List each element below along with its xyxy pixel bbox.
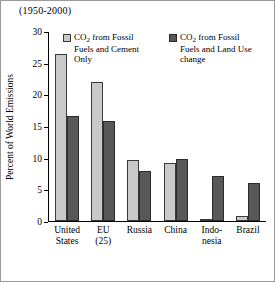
- x-tick-label: EU(25): [85, 225, 121, 247]
- x-tick-label-line1: EU: [97, 225, 110, 235]
- y-tick-label: 10: [33, 154, 43, 164]
- bar: [212, 176, 224, 221]
- y-tick-label: 25: [33, 59, 43, 69]
- bar: [176, 159, 188, 221]
- legend-label: CO2 from FossilFuels and CementOnly: [74, 32, 139, 65]
- x-tick-label-line1: Brazil: [236, 225, 259, 235]
- y-tick-mark: [44, 222, 48, 223]
- legend-label-line2: Fuels and Land Use: [180, 44, 252, 55]
- legend-label-line3: Only: [74, 54, 139, 65]
- legend-label: CO2 from FossilFuels and Land Usechange: [180, 32, 252, 65]
- y-axis-title: Percent of World Emissions: [3, 32, 17, 222]
- bar: [236, 216, 248, 221]
- x-tick-label-line2: nesia: [194, 236, 230, 247]
- x-tick-label-line2: (25): [85, 236, 121, 247]
- legend-label-line1-rest: from Fossil: [90, 32, 134, 42]
- bar: [248, 183, 260, 221]
- bar: [139, 171, 151, 221]
- bar: [91, 82, 103, 221]
- chart-legend: CO2 from FossilFuels and CementOnlyCO2 f…: [63, 32, 268, 65]
- legend-label-line2: Fuels and Cement: [74, 44, 139, 55]
- y-tick-mark: [44, 64, 48, 65]
- legend-label-subscript: 2: [193, 36, 197, 44]
- y-tick-label: 5: [37, 185, 42, 195]
- y-tick-label: 15: [33, 122, 43, 132]
- legend-swatch-icon: [63, 34, 71, 42]
- bar: [55, 54, 67, 221]
- bar: [164, 163, 176, 221]
- x-axis-line: [48, 221, 266, 222]
- x-axis-labels: UnitedStatesEU(25)RussiaChinaIndo-nesiaB…: [49, 225, 266, 247]
- legend-label-line3: change: [180, 54, 252, 65]
- y-tick-label: 0: [37, 217, 42, 227]
- legend-entry: CO2 from FossilFuels and Land Usechange: [169, 32, 267, 65]
- x-tick-label: Indo-nesia: [194, 225, 230, 247]
- legend-label-subscript: 2: [87, 36, 91, 44]
- bar: [200, 219, 212, 221]
- y-tick-mark: [44, 159, 48, 160]
- legend-label-formula: CO: [180, 32, 193, 42]
- x-tick-label-line1: Indo-: [201, 225, 222, 235]
- legend-entry: CO2 from FossilFuels and CementOnly: [63, 32, 161, 65]
- y-axis-title-text: Percent of World Emissions: [5, 74, 15, 180]
- y-tick-mark: [44, 127, 48, 128]
- legend-label-line1-rest: from Fossil: [196, 32, 240, 42]
- y-tick-label: 20: [33, 90, 43, 100]
- x-tick-label: Russia: [121, 225, 157, 247]
- x-tick-label-line2: States: [49, 236, 85, 247]
- bar: [103, 121, 115, 221]
- y-tick-mark: [44, 190, 48, 191]
- x-tick-label: UnitedStates: [49, 225, 85, 247]
- legend-label-formula: CO: [74, 32, 87, 42]
- x-tick-label-line1: United: [54, 225, 80, 235]
- x-tick-label-line1: China: [164, 225, 187, 235]
- x-tick-label-line1: Russia: [127, 225, 152, 235]
- x-tick-label: China: [158, 225, 194, 247]
- x-tick-label: Brazil: [230, 225, 266, 247]
- legend-swatch-icon: [169, 34, 177, 42]
- bar: [127, 160, 139, 221]
- y-tick-mark: [44, 95, 48, 96]
- chart-title: (1950-2000): [19, 5, 71, 16]
- y-tick-mark: [44, 32, 48, 33]
- y-tick-label: 30: [33, 27, 43, 37]
- bar: [67, 116, 79, 221]
- chart-figure: (1950-2000) Percent of World Emissions 0…: [0, 0, 275, 282]
